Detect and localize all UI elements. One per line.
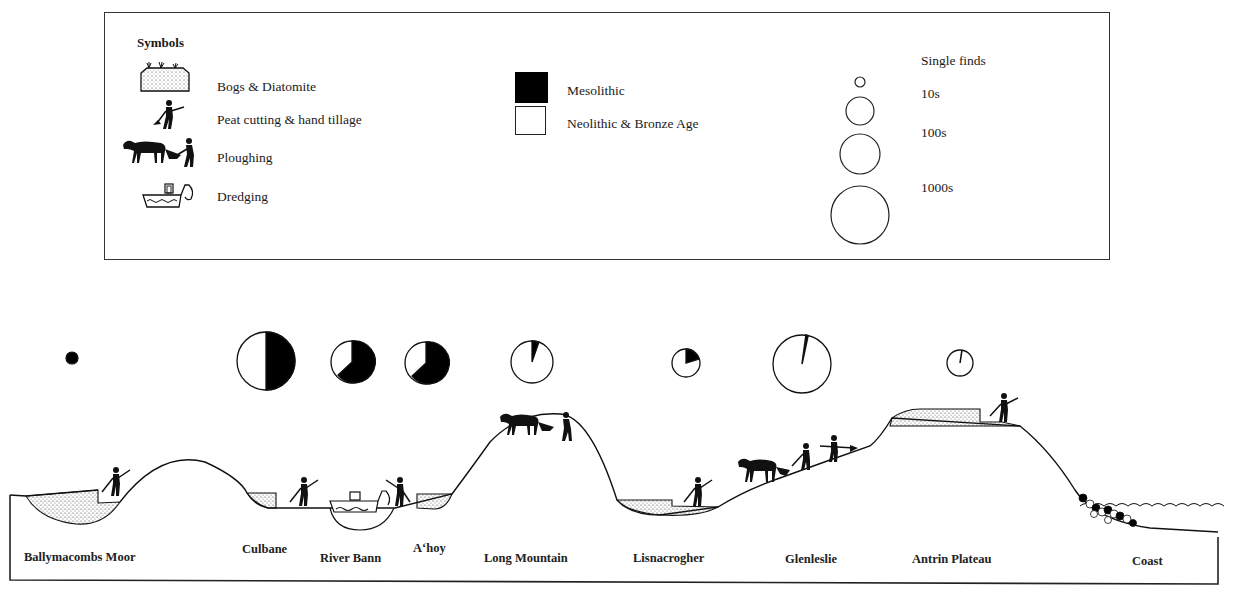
peat-cutter-antrin-icon xyxy=(990,393,1018,422)
pie-culbane xyxy=(237,332,295,390)
site-label-antrin: Antrin Plateau xyxy=(912,552,992,567)
peat-cutter-ballymacombs-icon xyxy=(102,467,130,496)
coast-boulders xyxy=(1079,494,1137,527)
site-label-glenleslie: Glenleslie xyxy=(785,552,837,567)
horse-plough-long-mountain-icon xyxy=(500,412,572,441)
hand-tiller-glenleslie-2-icon xyxy=(820,435,858,462)
pie-ballymacombs xyxy=(66,352,78,364)
pie-antrin-plateau xyxy=(947,350,973,376)
peat-cutter-culbane-icon xyxy=(290,477,318,506)
peat-cutter-lisnacrogher-icon xyxy=(684,477,712,506)
hand-tiller-glenleslie-1-icon xyxy=(792,443,810,470)
human-figures xyxy=(102,393,1018,506)
horse-plough-glenleslie-icon xyxy=(738,459,790,482)
site-label-ballymacombs: Ballymacombs Moor xyxy=(24,550,135,565)
site-label-ahoy: A‘hoy xyxy=(413,541,446,556)
site-label-long-mountain: Long Mountain xyxy=(484,551,568,566)
pie-river-bann xyxy=(331,341,375,383)
site-label-river-bann: River Bann xyxy=(320,551,381,566)
pie-glenleslie xyxy=(773,335,831,393)
pie-ahoy xyxy=(405,342,449,384)
site-label-lisnacrogher: Lisnacrogher xyxy=(633,551,704,566)
site-label-culbane: Culbane xyxy=(242,542,287,557)
site-label-coast: Coast xyxy=(1132,554,1163,569)
pie-lisnacrogher xyxy=(672,349,700,377)
pie-long-mountain xyxy=(511,341,553,383)
landscape-profile xyxy=(0,0,1235,593)
dredger-boat-scene-icon xyxy=(330,491,390,512)
